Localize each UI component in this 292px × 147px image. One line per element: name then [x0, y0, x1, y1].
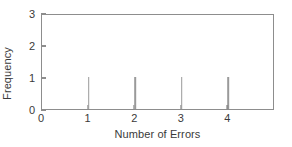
y-tick-label: 1 [9, 73, 35, 84]
y-tick-mark [41, 109, 46, 110]
x-tick-label: 2 [121, 113, 147, 124]
x-tick-mark [87, 105, 88, 110]
x-axis-label: Number of Errors [41, 128, 274, 140]
x-tick-mark [180, 105, 181, 110]
y-tick-mark [41, 45, 46, 46]
y-tick-label: 3 [9, 9, 35, 20]
y-tick-mark [41, 13, 46, 14]
x-tick-label: 0 [28, 113, 54, 124]
plot-area [42, 15, 273, 109]
x-tick-label: 1 [75, 113, 101, 124]
y-tick-label: 2 [9, 41, 35, 52]
x-tick-label: 3 [168, 113, 194, 124]
y-tick-mark [41, 77, 46, 78]
x-tick-mark [134, 105, 135, 110]
x-tick-mark [227, 105, 228, 110]
frequency-spike-chart: Frequency 0123 01234 Number of Errors [0, 0, 292, 147]
plot-frame [41, 14, 274, 110]
x-tick-label: 4 [214, 113, 240, 124]
